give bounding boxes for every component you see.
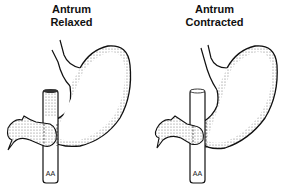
aorta-label: AA [193, 170, 203, 177]
stomach-contracted-illustration: AA [143, 0, 286, 191]
panel-antrum-relaxed: Antrum Relaxed AA [0, 0, 143, 191]
aorta-label: AA [46, 170, 56, 177]
panel-antrum-contracted: Antrum Contracted AA [143, 0, 286, 191]
stomach-relaxed-illustration: AA [0, 0, 143, 191]
